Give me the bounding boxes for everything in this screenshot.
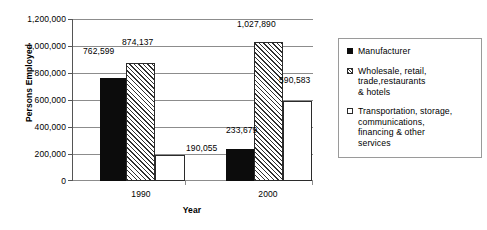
legend-label-wholesale: Wholesale, retail, trade,restaurants & h… [358,66,426,98]
y-tick-mark [68,46,72,47]
y-tick-label-1000000: 1,000,000 [8,42,66,51]
legend-label-manufacturer: Manufacturer [358,46,410,57]
value-label-2000-transportation: 590,583 [279,76,310,85]
legend-label-transportation-line2: communications, [358,117,425,127]
value-label-2000-wholesale: 1,027,890 [237,20,276,29]
legend-label-transportation-line3: financing & other [358,127,425,137]
y-tick-label-600000: 600,000 [8,96,66,105]
legend-label-wholesale-line3: & hotels [358,87,390,97]
y-tick-label-0: 0 [8,177,66,186]
bar-2000-manufacturer [226,149,254,181]
y-axis-line [72,19,73,181]
chart-figure: Persons Employed 1,200,000 1,000,000 800… [0,0,487,230]
value-label-2000-manufacturer: 233,679 [226,126,257,135]
bar-2000-wholesale [254,42,283,181]
legend-item-manufacturer: Manufacturer [347,46,476,57]
legend-label-transportation-line1: Transportation, storage, [358,106,452,116]
y-tick-mark [68,100,72,101]
y-tick-mark [68,19,72,20]
value-label-1990-transportation: 190,055 [186,144,217,153]
x-category-label-2000: 2000 [238,189,298,199]
chart-legend: Manufacturer Wholesale, retail, trade,re… [338,38,482,158]
legend-swatch-white-icon [347,108,353,114]
legend-swatch-solid-icon [347,48,353,54]
legend-item-transportation: Transportation, storage, communications,… [347,106,476,148]
x-tick-mark [185,181,186,185]
y-tick-label-1200000: 1,200,000 [8,15,66,24]
bar-1990-wholesale [126,63,155,181]
y-tick-label-200000: 200,000 [8,150,66,159]
value-label-1990-manufacturer: 762,599 [83,47,114,56]
legend-label-wholesale-line2: trade,restaurants [358,76,425,86]
y-tick-mark [68,154,72,155]
y-tick-mark [68,73,72,74]
x-axis-title: Year [152,205,232,215]
value-label-1990-wholesale: 874,137 [122,38,153,47]
y-tick-mark [68,127,72,128]
legend-swatch-hatched-icon [347,68,353,74]
bar-1990-manufacturer [100,78,126,181]
y-tick-label-400000: 400,000 [8,123,66,132]
bar-1990-transportation [155,155,185,181]
x-category-label-1990: 1990 [111,189,171,199]
legend-label-transportation: Transportation, storage, communications,… [358,106,452,148]
y-tick-label-800000: 800,000 [8,69,66,78]
legend-label-transportation-line4: services [358,138,391,148]
x-tick-mark [312,181,313,185]
legend-item-wholesale: Wholesale, retail, trade,restaurants & h… [347,66,476,98]
gridline-1200000 [72,19,313,20]
legend-label-wholesale-line1: Wholesale, retail, [358,66,426,76]
y-tick-mark [68,180,72,181]
bar-2000-transportation [283,101,312,181]
plot-area [72,19,313,181]
